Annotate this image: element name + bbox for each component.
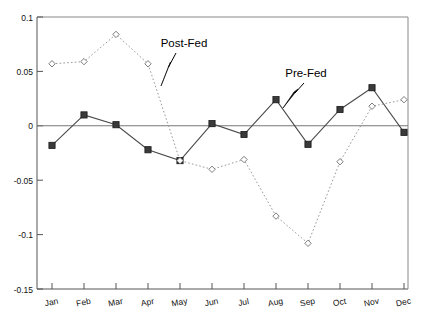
x-tick-label-aug: Aug bbox=[267, 296, 284, 309]
data-point-pre-fed-mar bbox=[113, 122, 119, 128]
data-point-post-fed-nov bbox=[369, 103, 375, 109]
x-axis-labels: Jan Feb Mar Apr May Jun Jul Aug Sep Oct … bbox=[44, 295, 413, 308]
data-point-pre-fed-aug bbox=[273, 97, 279, 103]
data-point-pre-fed-dec bbox=[401, 129, 407, 135]
x-tick-label-may: May bbox=[171, 295, 189, 308]
y-tick-label-5: -0.15 bbox=[14, 285, 34, 295]
chart-figure: 0.1 0.05 0 -0.05 -0.1 -0.15 Jan bbox=[0, 0, 422, 335]
series-pre-fed bbox=[49, 85, 407, 164]
data-point-post-fed-jun bbox=[209, 166, 215, 172]
series-post-fed bbox=[49, 31, 407, 246]
data-point-pre-fed-oct bbox=[337, 106, 343, 112]
x-tick-label-feb: Feb bbox=[75, 296, 92, 309]
data-point-post-fed-jul bbox=[241, 156, 247, 162]
plot-frame bbox=[37, 17, 408, 289]
annotation-post-fed-label: Post-Fed bbox=[161, 37, 208, 49]
y-tick-label-3: -0.05 bbox=[14, 176, 34, 186]
x-tick-label-jun: Jun bbox=[204, 296, 220, 308]
series-line-post-fed bbox=[52, 34, 404, 243]
x-tick-marks bbox=[52, 283, 404, 289]
arrow-icon bbox=[161, 62, 171, 86]
data-point-post-fed-oct bbox=[337, 159, 343, 165]
x-tick-label-oct: Oct bbox=[332, 296, 348, 308]
data-point-post-fed-dec bbox=[401, 96, 407, 102]
annotation-pre-fed: Pre-Fed bbox=[283, 67, 327, 108]
series-layer bbox=[49, 31, 407, 246]
data-point-post-fed-sep bbox=[305, 240, 311, 246]
data-point-pre-fed-feb bbox=[81, 112, 87, 118]
x-tick-label-mar: Mar bbox=[107, 296, 123, 309]
x-tick-label-jul: Jul bbox=[237, 296, 250, 308]
data-point-pre-fed-apr bbox=[145, 147, 151, 153]
y-tick-label-2: 0 bbox=[28, 121, 33, 131]
x-tick-label-jan: Jan bbox=[44, 296, 60, 308]
x-tick-label-sep: Sep bbox=[299, 296, 316, 309]
series-line-pre-fed bbox=[52, 88, 404, 161]
arrow-icon bbox=[283, 89, 298, 108]
data-point-pre-fed-jan bbox=[49, 142, 55, 148]
y-tick-label-0: 0.1 bbox=[21, 13, 33, 23]
monthly-returns-line-chart: 0.1 0.05 0 -0.05 -0.1 -0.15 Jan bbox=[0, 0, 422, 335]
data-point-pre-fed-jun bbox=[209, 121, 215, 127]
x-tick-label-apr: Apr bbox=[140, 296, 155, 308]
x-tick-label-dec: Dec bbox=[395, 296, 412, 309]
y-tick-label-1: 0.05 bbox=[16, 67, 33, 77]
data-point-post-fed-jan bbox=[49, 61, 55, 67]
data-point-pre-fed-jul bbox=[241, 131, 247, 137]
x-tick-label-nov: Nov bbox=[363, 296, 380, 309]
y-axis-labels: 0.1 0.05 0 -0.05 -0.1 -0.15 bbox=[14, 13, 34, 295]
y-tick-label-4: -0.1 bbox=[18, 230, 33, 240]
y-tick-marks bbox=[37, 17, 43, 289]
annotation-post-fed: Post-Fed bbox=[161, 37, 208, 86]
data-point-pre-fed-nov bbox=[369, 85, 375, 91]
data-point-pre-fed-sep bbox=[305, 141, 311, 147]
annotation-pre-fed-label: Pre-Fed bbox=[285, 67, 327, 79]
